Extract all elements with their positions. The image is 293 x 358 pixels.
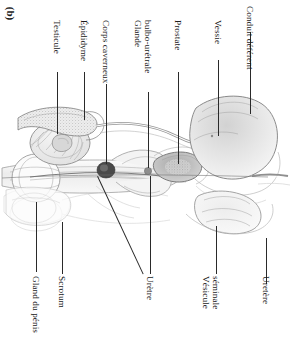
label-corps-caverneux: Corps caverneux	[101, 20, 111, 84]
label-glande-bulbo-uretrale-line2: bulbo-urétrale	[143, 20, 153, 73]
ureter	[252, 175, 290, 186]
label-scrotum: Scrotum	[57, 276, 67, 308]
label-conduit-deferent: Conduit déférent	[245, 6, 255, 70]
leader-line-prostate	[178, 72, 179, 164]
leader-line-vesicule-seminale	[216, 226, 217, 274]
label-vesicule-seminale-line2: séminale	[211, 276, 221, 309]
leader-line-scrotum	[62, 222, 63, 274]
bulbourethral-gland	[144, 167, 151, 174]
leader-line-glande-bulbo-uretrale	[148, 92, 149, 168]
scrotum	[6, 187, 71, 225]
leader-line-corps-caverneux	[106, 84, 107, 164]
label-uretere: Uretère	[261, 276, 271, 304]
label-testicule: Testicule	[52, 20, 62, 54]
bladder	[190, 96, 280, 204]
label-prostate: Prostate	[173, 20, 183, 50]
label-glande-bulbo-uretrale-line1: Glande	[133, 20, 143, 47]
seminal-vesicle	[186, 191, 273, 234]
panel-label: (b)	[5, 7, 16, 20]
label-gland-du-penis: Gland du pénis	[31, 276, 41, 333]
corpus-cavernosum	[97, 162, 115, 178]
label-epididyme: Épididyme	[79, 20, 89, 61]
leader-line-uretre-vertical	[150, 176, 151, 274]
label-uretre: Urètre	[145, 276, 155, 300]
label-vesicule-seminale-line1: Vésicule	[201, 276, 211, 309]
leader-line-gland-du-penis	[36, 202, 37, 272]
label-vessie: Vessie	[213, 20, 223, 44]
leader-line-vessie	[218, 60, 219, 136]
figure-canvas: (b) Testicule Épididyme Corps caverneux …	[0, 0, 293, 358]
leader-line-testicule	[57, 72, 58, 134]
leader-line-epididyme	[84, 72, 85, 120]
